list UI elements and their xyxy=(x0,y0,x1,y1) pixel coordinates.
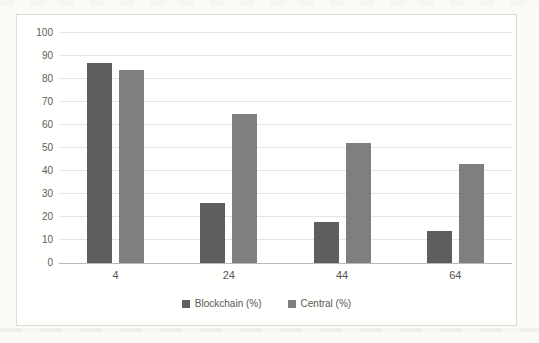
x-tick-label-44: 44 xyxy=(314,269,371,281)
bar-group-64 xyxy=(427,33,484,263)
y-tick-label-100: 100 xyxy=(23,28,53,38)
legend-item-central: Central (%) xyxy=(288,298,352,309)
scanned-page: 0102030405060708090100 4244464 Blockchai… xyxy=(0,0,539,343)
bar-blockchain-64 xyxy=(427,231,452,263)
bars-layer xyxy=(59,33,512,263)
scan-artifact-top xyxy=(0,0,539,6)
x-axis-labels: 4244464 xyxy=(59,269,512,281)
legend-item-blockchain: Blockchain (%) xyxy=(182,298,262,309)
bar-central-4 xyxy=(119,70,144,263)
bar-group-4 xyxy=(87,33,144,263)
y-tick-label-20: 20 xyxy=(23,212,53,222)
legend-label: Central (%) xyxy=(301,298,352,309)
x-tick-label-4: 4 xyxy=(87,269,144,281)
x-tick-label-24: 24 xyxy=(200,269,257,281)
bar-group-24 xyxy=(200,33,257,263)
bar-blockchain-4 xyxy=(87,63,112,263)
y-tick-label-70: 70 xyxy=(23,97,53,107)
bar-blockchain-24 xyxy=(200,203,225,263)
legend-marker-icon xyxy=(288,300,296,308)
chart-legend: Blockchain (%)Central (%) xyxy=(17,298,516,309)
bar-central-44 xyxy=(346,143,371,263)
bar-central-24 xyxy=(232,114,257,264)
scan-artifact-bottom xyxy=(0,328,539,332)
plot-area: 0102030405060708090100 xyxy=(59,33,512,264)
y-tick-label-10: 10 xyxy=(23,235,53,245)
bar-central-64 xyxy=(459,164,484,263)
y-tick-label-50: 50 xyxy=(23,143,53,153)
bar-blockchain-44 xyxy=(314,222,339,263)
y-tick-label-30: 30 xyxy=(23,189,53,199)
bar-group-44 xyxy=(314,33,371,263)
y-tick-label-40: 40 xyxy=(23,166,53,176)
y-tick-label-60: 60 xyxy=(23,120,53,130)
legend-marker-icon xyxy=(182,300,190,308)
x-tick-label-64: 64 xyxy=(427,269,484,281)
legend-label: Blockchain (%) xyxy=(195,298,262,309)
y-tick-label-80: 80 xyxy=(23,74,53,84)
y-tick-label-0: 0 xyxy=(23,258,53,268)
bar-chart: 0102030405060708090100 4244464 Blockchai… xyxy=(16,14,517,326)
y-tick-label-90: 90 xyxy=(23,51,53,61)
